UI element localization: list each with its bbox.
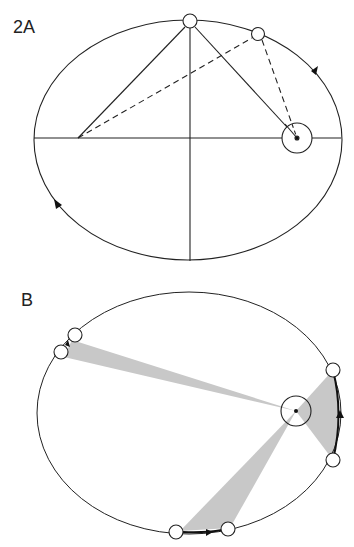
swept-area-2 (296, 370, 339, 460)
planet-b6 (221, 522, 235, 536)
planet-b2 (54, 345, 68, 359)
swept-area-3 (180, 411, 296, 531)
sun-dot-b (294, 409, 298, 413)
dashed-focus-line-right (262, 40, 297, 138)
planet-a1 (183, 14, 197, 28)
focus-line-left (78, 27, 185, 138)
dashed-focus-line-left (78, 38, 252, 138)
planet-b4 (326, 453, 340, 467)
swept-area-1 (64, 340, 296, 411)
kepler-orbit-diagram (0, 0, 354, 547)
orbit-ellipse-b (37, 292, 341, 534)
direction-arrow-icon (206, 529, 213, 536)
planet-a2 (252, 28, 265, 41)
panel-b (37, 292, 344, 539)
planet-b3 (326, 363, 340, 377)
focus-line-right (195, 27, 297, 138)
planet-b5 (169, 525, 183, 539)
panel-a (34, 14, 342, 261)
planet-b1 (68, 328, 82, 342)
direction-arrow-icon (65, 340, 70, 347)
sun-dot-a (295, 136, 299, 140)
